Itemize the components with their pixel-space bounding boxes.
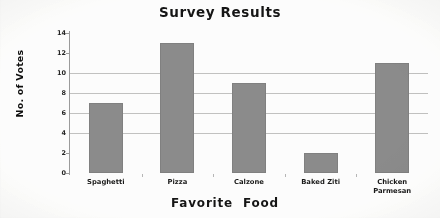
category-label: Pizza bbox=[141, 178, 213, 187]
bar bbox=[375, 63, 409, 173]
x-tick-mark bbox=[356, 174, 357, 177]
y-tick-mark bbox=[66, 153, 70, 154]
category-label-line: Baked Ziti bbox=[285, 178, 357, 187]
y-axis-title: No. of Votes bbox=[14, 49, 25, 119]
category-label: ChickenParmesan bbox=[356, 178, 428, 195]
x-tick-mark bbox=[285, 174, 286, 177]
y-tick-mark bbox=[66, 53, 70, 54]
bar bbox=[160, 43, 194, 173]
bar bbox=[304, 153, 338, 173]
y-tick-label: 12 bbox=[46, 49, 66, 57]
bar bbox=[89, 103, 123, 173]
category-label-line: Pizza bbox=[141, 178, 213, 187]
x-axis-title: Favorite Food bbox=[60, 196, 390, 210]
category-label: Baked Ziti bbox=[285, 178, 357, 187]
chart-title: Survey Results bbox=[0, 4, 440, 20]
y-tick-label: 14 bbox=[46, 29, 66, 37]
y-tick-label: 6 bbox=[46, 109, 66, 117]
bar-chart: Survey Results No. of Votes 02468101214 … bbox=[0, 0, 440, 218]
y-tick-mark bbox=[66, 33, 70, 34]
y-axis-tick-labels: 02468101214 bbox=[42, 33, 66, 173]
y-tick-label: 10 bbox=[46, 69, 66, 77]
x-tick-mark bbox=[142, 174, 143, 177]
category-label: Spaghetti bbox=[70, 178, 142, 187]
category-label-line: Calzone bbox=[213, 178, 285, 187]
x-tick-mark bbox=[213, 174, 214, 177]
y-tick-label: 4 bbox=[46, 129, 66, 137]
y-tick-label: 0 bbox=[46, 169, 66, 177]
y-tick-mark bbox=[66, 173, 70, 174]
category-label: Calzone bbox=[213, 178, 285, 187]
plot-area bbox=[70, 33, 428, 173]
y-tick-label: 8 bbox=[46, 89, 66, 97]
category-label-line: Chicken bbox=[356, 178, 428, 187]
category-label-line: Spaghetti bbox=[70, 178, 142, 187]
y-tick-label: 2 bbox=[46, 149, 66, 157]
bar bbox=[232, 83, 266, 173]
category-label-line: Parmesan bbox=[356, 187, 428, 196]
